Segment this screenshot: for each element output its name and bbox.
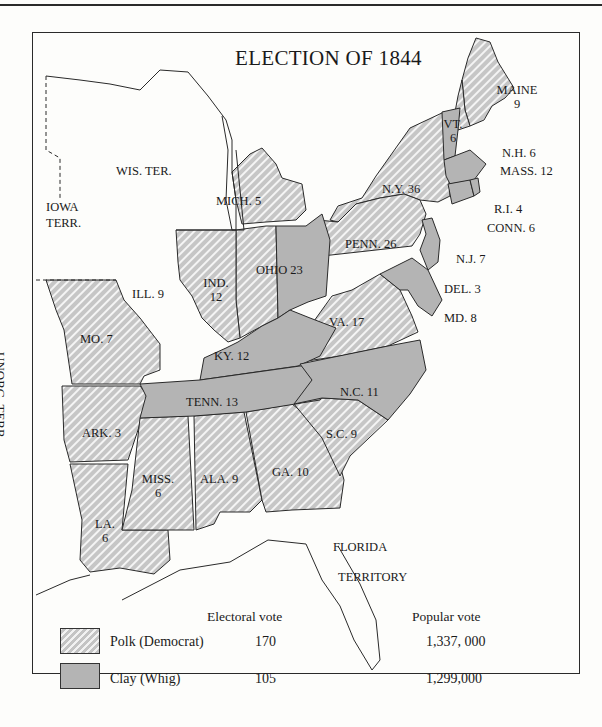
label-virginia: VA. 17 — [329, 315, 364, 329]
label-north-carolina: N.C. 11 — [340, 385, 379, 399]
label-michigan: MICH. 5 — [216, 194, 261, 208]
legend-polk-candidate: Polk (Democrat) — [110, 634, 204, 650]
label-maine: MAINE9 — [487, 83, 547, 111]
label-rhode-island: R.I. 4 — [494, 202, 522, 216]
label-georgia: GA. 10 — [272, 465, 309, 479]
legend-electoral-header: Electoral vote — [207, 609, 282, 625]
label-alabama: ALA. 9 — [200, 472, 238, 486]
legend-popular-header: Popular vote — [412, 609, 481, 625]
gulf-coast-west — [36, 575, 90, 595]
label-mississippi: MISS.6 — [138, 472, 178, 500]
map-title: ELECTION OF 1844 — [235, 46, 422, 71]
label-indiana: IND.12 — [201, 276, 231, 304]
label-vermont: VT.6 — [438, 117, 468, 145]
label-wisconsin-territory: WIS. TER. — [116, 164, 172, 178]
state-maine — [462, 38, 514, 126]
label-iowa-territory-1: IOWA — [46, 200, 79, 214]
legend-clay-electoral: 105 — [255, 671, 276, 687]
state-arkansas — [62, 386, 148, 462]
state-michigan — [232, 148, 306, 224]
unorg-terr-border — [46, 76, 60, 200]
label-new-hampshire: N.H. 6 — [502, 146, 536, 160]
label-louisiana: LA.6 — [90, 517, 120, 545]
legend-clay-popular: 1,299,000 — [426, 671, 482, 687]
legend-polk-swatch — [60, 628, 100, 654]
label-pennsylvania: PENN. 26 — [345, 237, 396, 251]
label-arkansas: ARK. 3 — [82, 426, 121, 440]
label-connecticut: CONN. 6 — [487, 221, 535, 235]
label-missouri: MO. 7 — [80, 332, 113, 346]
label-delaware: DEL. 3 — [444, 282, 481, 296]
legend-clay-swatch — [60, 663, 100, 689]
legend-polk-popular: 1,337, 000 — [426, 634, 486, 650]
label-florida-2: TERRITORY — [338, 570, 407, 584]
state-new-jersey — [420, 218, 440, 270]
label-tennessee: TENN. 13 — [186, 395, 238, 409]
label-new-jersey: N.J. 7 — [456, 252, 486, 266]
legend-clay-candidate: Clay (Whig) — [110, 671, 180, 687]
state-connecticut — [448, 180, 474, 204]
label-florida-1: FLORIDA — [333, 540, 387, 554]
label-massachusetts: MASS. 12 — [500, 164, 553, 178]
label-unorganized-territory: UNORG. TERR. — [0, 352, 8, 441]
label-new-york: N.Y. 36 — [382, 182, 420, 196]
label-maryland: MD. 8 — [444, 311, 477, 325]
legend-polk-electoral: 170 — [255, 634, 276, 650]
label-ohio: OHIO 23 — [256, 263, 303, 277]
label-iowa-territory-2: TERR. — [46, 216, 81, 230]
label-south-carolina: S.C. 9 — [326, 427, 357, 441]
label-illinois: ILL. 9 — [132, 287, 164, 301]
label-kentucky: KY. 12 — [214, 349, 249, 363]
